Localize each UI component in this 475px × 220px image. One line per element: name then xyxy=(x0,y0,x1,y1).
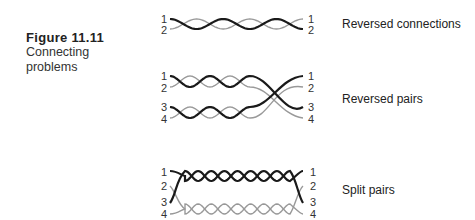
diagram-label: Split pairs xyxy=(342,183,395,197)
right-pin-3: 3 xyxy=(310,196,316,208)
light-wire xyxy=(170,76,303,118)
light-wire xyxy=(170,204,303,214)
right-pin-2: 2 xyxy=(308,82,314,94)
left-pin-1: 1 xyxy=(161,70,167,82)
left-pin-3: 3 xyxy=(161,101,167,113)
right-pin-4: 4 xyxy=(310,208,316,220)
diagram-split-pairs: 1 2 3 4 1 2 3 4 Split pairs xyxy=(161,166,395,220)
right-pin-1: 1 xyxy=(310,166,316,178)
left-pin-4: 4 xyxy=(161,208,167,220)
left-pin-2: 2 xyxy=(161,82,167,94)
diagram-reversed-connections: 1 2 1 2 Reversed connections xyxy=(161,13,461,36)
dark-wire xyxy=(170,76,303,118)
dark-wire xyxy=(170,76,303,109)
left-pin-3: 3 xyxy=(161,196,167,208)
left-pin-2: 2 xyxy=(161,24,167,36)
right-pin-4: 4 xyxy=(308,113,314,125)
diagram-reversed-pairs: 1 2 3 4 1 2 3 4 Reversed pairs xyxy=(161,70,423,125)
wiring-diagrams: 1 2 1 2 Reversed connections 1 2 3 4 1 2… xyxy=(0,0,475,220)
left-pin-1: 1 xyxy=(161,166,167,178)
diagram-label: Reversed pairs xyxy=(342,92,423,106)
diagram-label: Reversed connections xyxy=(342,17,461,31)
left-pin-4: 4 xyxy=(161,113,167,125)
right-pin-1: 1 xyxy=(308,70,314,82)
left-pin-2: 2 xyxy=(161,180,167,192)
right-pin-3: 3 xyxy=(308,101,314,113)
dark-wire xyxy=(170,171,303,203)
right-pin-2: 2 xyxy=(308,24,314,36)
right-pin-2: 2 xyxy=(310,180,316,192)
